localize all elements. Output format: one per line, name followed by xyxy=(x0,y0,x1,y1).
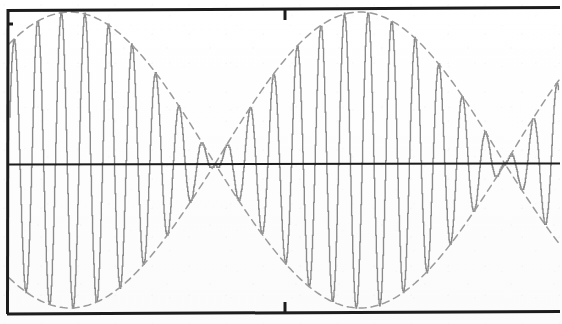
waveform-plot xyxy=(0,0,562,324)
axis-ticks xyxy=(8,9,285,313)
screenshot-root: Amplitude-modulated waveform Aliased hig… xyxy=(0,0,562,324)
left-axis xyxy=(8,9,9,314)
plot-frame xyxy=(7,8,560,315)
plot-traces xyxy=(9,12,559,308)
upper-envelope-trace xyxy=(9,12,559,164)
zero-axis-line xyxy=(8,164,560,165)
modulated-signal-trace xyxy=(10,13,559,308)
